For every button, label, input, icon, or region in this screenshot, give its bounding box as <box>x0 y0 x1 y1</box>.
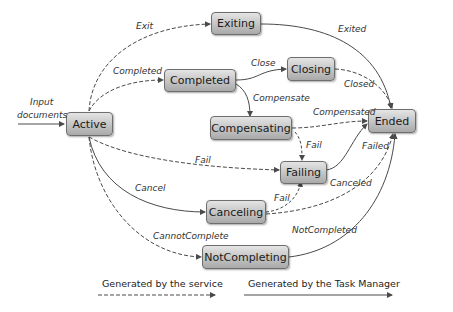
transition-cannot-complete: CannotComplete <box>153 231 229 241</box>
state-active: Active <box>66 112 113 136</box>
transition-failed: Failed <box>362 141 389 151</box>
transition-exited: Exited <box>338 24 366 34</box>
transition-fail-canceling: Fail <box>274 193 290 203</box>
legend-task-manager: Generated by the Task Manager <box>248 278 400 289</box>
transition-completed: Completed <box>113 66 162 76</box>
state-failing: Failing <box>280 161 327 184</box>
state-completed: Completed <box>164 69 236 92</box>
state-canceling: Canceling <box>206 200 266 224</box>
input-label-line1: Input <box>30 97 53 107</box>
state-compensating: Compensating <box>210 116 292 140</box>
input-label-line2: documents <box>17 110 67 120</box>
transition-fail-active: Fail <box>195 155 211 165</box>
state-diagram: Active Exiting Completed Closing Compens… <box>0 0 453 312</box>
state-exiting: Exiting <box>211 12 261 35</box>
transition-canceled: Canceled <box>330 178 372 188</box>
transition-cancel: Cancel <box>135 183 166 193</box>
transition-compensate: Compensate <box>253 93 310 103</box>
transition-not-completed: NotCompleted <box>292 225 357 235</box>
state-closing: Closing <box>287 57 335 81</box>
transition-fail-compensating: Fail <box>306 140 322 150</box>
transition-compensated: Compensated <box>313 107 376 117</box>
legend-service: Generated by the service <box>102 278 223 289</box>
state-not-completing: NotCompleting <box>202 245 289 269</box>
transition-closed: Closed <box>344 79 374 89</box>
transition-exit: Exit <box>136 21 153 31</box>
transition-close: Close <box>251 58 276 68</box>
